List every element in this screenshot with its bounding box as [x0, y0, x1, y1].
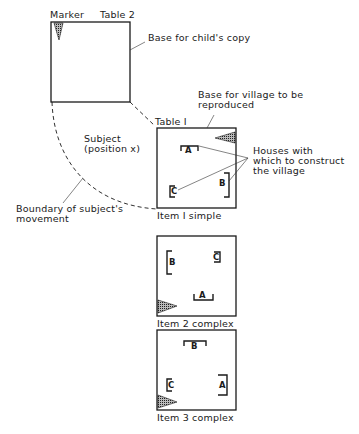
leader-house-c: [178, 158, 248, 190]
house-b-letter: B: [219, 178, 225, 188]
leader-village: [207, 115, 214, 128]
house-c-letter: C: [168, 380, 174, 390]
base-village-label: Base for village to be reproduced: [198, 90, 303, 110]
marker-icon: [158, 395, 177, 408]
marker-icon: [215, 132, 235, 143]
table1-label: Table I: [155, 117, 187, 127]
boundary-arc: [52, 102, 157, 209]
base-child-copy-label: Base for child's copy: [148, 33, 250, 43]
table2-base: [51, 22, 130, 102]
subject-label: Subject (position x): [84, 134, 140, 154]
houses-label: Houses with which to construct the villa…: [253, 146, 344, 176]
item1-caption: Item I simple: [157, 211, 221, 221]
leader-boundary: [63, 178, 83, 203]
house-b-letter: B: [191, 341, 197, 351]
marker-label: Marker: [50, 10, 84, 20]
house-c-letter: C: [171, 186, 177, 196]
house-a-letter: A: [185, 145, 192, 155]
marker-icon: [54, 23, 63, 40]
house-b-letter: B: [169, 257, 175, 267]
house-a-letter: A: [219, 380, 226, 390]
house-a-letter: A: [199, 290, 206, 300]
dashed-link: [130, 102, 155, 126]
leader-house-b: [229, 158, 248, 181]
item3-caption: Item 3 complex: [157, 413, 234, 423]
marker-icon: [158, 300, 177, 313]
item2-caption: Item 2 complex: [157, 319, 234, 329]
boundary-label: Boundary of subject's movement: [16, 204, 123, 224]
house-c-letter: C: [213, 252, 219, 262]
leader-house-a: [199, 146, 248, 158]
table2-label: Table 2: [100, 10, 135, 20]
leader-child-copy: [130, 42, 145, 50]
